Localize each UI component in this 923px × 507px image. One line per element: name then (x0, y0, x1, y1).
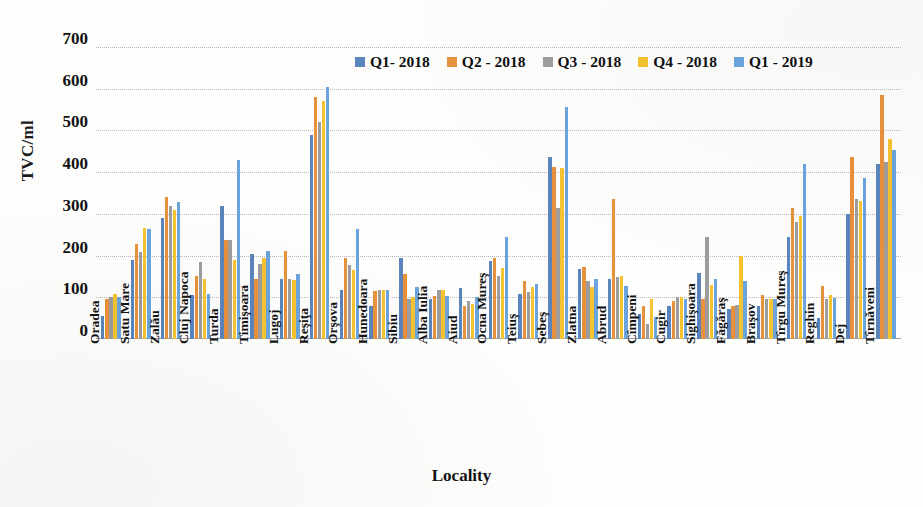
x-tick: Turda (215, 342, 245, 462)
bar (139, 252, 142, 339)
bar (582, 267, 585, 339)
y-tick-label: 200 (63, 238, 89, 258)
bar (565, 107, 568, 339)
bar (850, 157, 853, 339)
bar (616, 277, 619, 339)
x-tick: Zlatna (573, 342, 603, 462)
bar (791, 208, 794, 339)
x-tick-label: Orşova (325, 302, 341, 344)
bar (527, 292, 530, 339)
bar-group (513, 47, 543, 339)
x-tick-label: Făgăraş (713, 298, 729, 345)
bar (314, 97, 317, 339)
bar-group (573, 47, 603, 339)
bar (378, 290, 381, 339)
legend-swatch (638, 57, 648, 67)
bar (825, 299, 828, 339)
legend-label: Q1 - 2019 (749, 53, 813, 71)
bar (892, 150, 895, 339)
bar (284, 251, 287, 339)
bar (109, 297, 112, 339)
bar (880, 95, 883, 339)
x-tick-label: Sibiu (385, 314, 401, 344)
bar (497, 276, 500, 339)
x-tick-label: Reghin (802, 303, 818, 344)
bar (348, 265, 351, 339)
bar (705, 237, 708, 339)
x-tick: Oradea (96, 342, 126, 462)
x-tick: Teiuş (513, 342, 543, 462)
x-tick: Hunedoara (364, 342, 394, 462)
bar (612, 199, 615, 339)
x-tick: Alba Iulia (424, 342, 454, 462)
x-tick-label: Lugoj (266, 309, 282, 344)
x-tick: Braşov (752, 342, 782, 462)
x-tick-label: Aiud (445, 315, 461, 344)
bar (463, 306, 466, 339)
x-tick-label: Alba Iulia (415, 286, 431, 344)
x-tick: Zalău (156, 342, 186, 462)
bar (467, 301, 470, 339)
bar (761, 295, 764, 339)
bar (224, 240, 227, 339)
y-tick-label: 700 (63, 29, 89, 49)
x-tick-label: Ocna Mureş (474, 273, 490, 344)
y-tick-label: 100 (63, 279, 89, 299)
x-tick-label: Cîmpeni (624, 294, 640, 344)
legend-swatch (447, 57, 457, 67)
bar (676, 297, 679, 339)
x-tick-label: Cugir (653, 310, 669, 344)
bar (403, 274, 406, 339)
bar (888, 139, 891, 339)
legend: Q1- 2018Q2 - 2018Q3 - 2018Q4 - 2018Q1 - … (355, 53, 813, 71)
x-tick: Dej (841, 342, 871, 462)
y-axis-tick-labels: 0100200300400500600700 (40, 38, 96, 339)
bar (165, 197, 168, 339)
bar (642, 306, 645, 339)
legend-label: Q4 - 2018 (653, 53, 717, 71)
bar (846, 214, 849, 339)
legend-swatch (734, 57, 744, 67)
x-tick-label: Abrud (594, 306, 610, 344)
legend-label: Q2 - 2018 (462, 53, 526, 71)
y-tick-label: 300 (63, 196, 89, 216)
x-tick-label: Zalău (147, 310, 163, 344)
bar (556, 208, 559, 339)
x-tick: Făgăraş (722, 342, 752, 462)
x-tick: Reghin (812, 342, 842, 462)
bar-group (722, 47, 752, 339)
legend-item: Q2 - 2018 (447, 53, 526, 71)
x-tick: Tîrnăveni (871, 342, 901, 462)
bar (169, 206, 172, 339)
bar (884, 162, 887, 339)
x-tick-label: Hunedoara (355, 279, 371, 344)
x-tick: Cluj Napoca (185, 342, 215, 462)
bar (199, 262, 202, 339)
x-tick-label: Sebeş (534, 312, 550, 344)
bar (373, 291, 376, 339)
x-axis-tick-labels: OradeaSatu MareZalăuCluj NapocaTurdaTimi… (96, 342, 901, 462)
x-tick: Sighişoara (692, 342, 722, 462)
bar (552, 167, 555, 339)
x-tick-label: Timişoara (236, 285, 252, 344)
bar (407, 299, 410, 339)
bar (143, 228, 146, 339)
y-tick-label: 600 (63, 71, 89, 91)
x-tick: Cugir (662, 342, 692, 462)
bar (105, 299, 108, 339)
x-tick: Lugoj (275, 342, 305, 462)
y-tick-label: 500 (63, 112, 89, 132)
bar (620, 276, 623, 339)
bar (821, 286, 824, 339)
bar (855, 199, 858, 339)
x-tick-label: Teiuş (504, 314, 520, 344)
bar (493, 258, 496, 339)
bar (344, 258, 347, 339)
x-tick-label: Tîrgu Mureş (773, 270, 789, 344)
x-tick-label: Turda (206, 308, 222, 344)
bar (228, 240, 231, 339)
bar (318, 122, 321, 339)
legend-item: Q1- 2018 (355, 53, 430, 71)
bar (701, 299, 704, 339)
legend-item: Q3 - 2018 (543, 53, 622, 71)
